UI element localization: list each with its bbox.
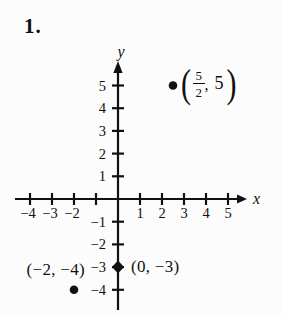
x-tick-label: 3: [180, 205, 187, 221]
open-paren-icon: (: [181, 64, 191, 103]
separator-comma: ,: [205, 76, 209, 94]
y-tick-label: 5: [99, 78, 106, 94]
x-axis-arrow-icon: [237, 194, 247, 203]
y-tick-label: 3: [99, 123, 106, 139]
x-tick-label: −2: [64, 205, 79, 221]
figure-container: 1. xy−4−3−21234554321−1−2−3−4 ( 5 2 , 5 …: [0, 0, 282, 317]
y-axis-label: y: [115, 43, 125, 61]
y-tick-label: 1: [99, 168, 106, 184]
y-tick-label: 2: [99, 146, 106, 162]
close-paren-icon: ): [227, 64, 237, 103]
fraction-numerator: 5: [193, 69, 205, 85]
data-point-diamond: [112, 261, 124, 274]
y-axis-arrow-icon: [113, 61, 122, 73]
y-value: 5: [215, 73, 224, 94]
y-tick-label: −4: [91, 282, 107, 298]
x-tick-label: −4: [20, 205, 36, 221]
fraction-denominator: 2: [196, 84, 203, 99]
point-label-five-halves-five: ( 5 2 , 5 ): [181, 69, 237, 99]
y-tick-label: 4: [99, 100, 107, 116]
x-tick-label: −3: [42, 205, 57, 221]
fraction: 5 2: [193, 69, 205, 99]
y-tick-label: −2: [91, 236, 106, 252]
point-label: (−2, −4): [27, 260, 85, 280]
data-point-dot: [169, 81, 178, 90]
y-tick-label: −1: [91, 214, 106, 230]
x-tick-label: 1: [136, 205, 143, 221]
point-label: (0, −3): [131, 257, 180, 277]
x-tick-label: 4: [202, 205, 210, 221]
data-point-dot: [70, 286, 79, 295]
x-tick-label: 5: [224, 205, 231, 221]
y-tick-label: −3: [91, 259, 106, 275]
x-tick-label: 2: [158, 205, 165, 221]
x-axis-label: x: [252, 190, 260, 207]
